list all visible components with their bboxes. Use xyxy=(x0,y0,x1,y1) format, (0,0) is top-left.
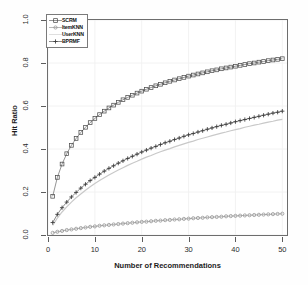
x-tick-label: 50 xyxy=(270,245,294,254)
y-tick-label: 0.6 xyxy=(21,93,30,119)
legend-item-userknn: UserKNN xyxy=(49,31,84,38)
legend-label: BPRMF xyxy=(62,38,80,45)
y-tick-label: 1.0 xyxy=(21,7,30,33)
y-tick-mark xyxy=(41,63,46,64)
y-tick-label: 0.2 xyxy=(21,179,30,205)
chart-legend: SCRMItemKNNUserKNNBPRMF xyxy=(46,14,88,48)
legend-label: ItemKNN xyxy=(62,24,83,31)
chart-figure: 0.00.20.40.60.81.0 01020304050 Hit Ratio… xyxy=(0,0,308,285)
y-tick-mark xyxy=(41,192,46,193)
legend-marker-icon xyxy=(49,24,62,31)
x-tick-label: 30 xyxy=(177,245,201,254)
legend-marker-icon xyxy=(49,31,62,38)
series-scrm xyxy=(51,57,284,198)
x-tick-label: 10 xyxy=(83,245,107,254)
legend-item-itemknn: ItemKNN xyxy=(49,24,84,31)
legend-item-scrm: SCRM xyxy=(49,17,84,24)
legend-marker-icon xyxy=(49,17,62,24)
series-itemknn xyxy=(51,212,284,234)
legend-label: SCRM xyxy=(62,17,77,24)
x-tick-mark xyxy=(48,237,49,242)
plot-frame xyxy=(47,19,288,236)
plot-area xyxy=(48,20,287,235)
x-axis-title: Number of Recommendations xyxy=(47,261,288,270)
x-tick-label: 0 xyxy=(36,245,60,254)
y-tick-mark xyxy=(41,106,46,107)
y-tick-label: 0.4 xyxy=(21,136,30,162)
y-tick-mark xyxy=(41,149,46,150)
y-tick-mark xyxy=(41,235,46,236)
x-tick-mark xyxy=(282,237,283,242)
y-tick-label: 0.0 xyxy=(21,222,30,248)
x-tick-label: 20 xyxy=(130,245,154,254)
legend-label: UserKNN xyxy=(62,31,84,38)
x-tick-mark xyxy=(189,237,190,242)
legend-item-bprmf: BPRMF xyxy=(49,38,84,45)
y-tick-label: 0.8 xyxy=(21,50,30,76)
x-tick-mark xyxy=(142,237,143,242)
y-axis-title: Hit Ratio xyxy=(10,91,19,151)
series-userknn xyxy=(53,119,283,225)
x-tick-mark xyxy=(95,237,96,242)
legend-marker-icon xyxy=(49,38,62,45)
series-canvas xyxy=(48,20,287,235)
x-tick-mark xyxy=(235,237,236,242)
x-tick-label: 40 xyxy=(223,245,247,254)
